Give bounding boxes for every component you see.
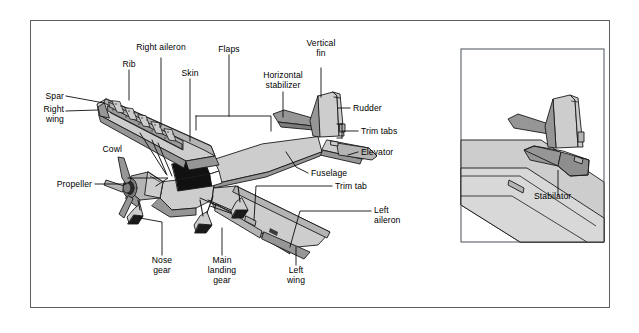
label-propeller: Propeller: [24, 179, 92, 189]
leader-flaps-bracket: [196, 116, 271, 131]
stabilator-inset: [461, 49, 604, 242]
label-horizontal-stabilizer-line1: Horizontal: [248, 70, 318, 80]
label-fuselage: Fuselage: [311, 168, 347, 178]
label-right-wing-line2: wing: [0, 114, 64, 124]
label-left-aileron-line1: Left: [374, 205, 389, 215]
label-main-landing-gear-line1: Main: [198, 255, 246, 265]
label-left-wing-line1: Left: [276, 265, 316, 275]
label-right-aileron: Right aileron: [118, 42, 204, 52]
label-rib: Rib: [109, 59, 149, 69]
label-left-aileron-line2: aileron: [374, 215, 401, 225]
trim-tab-elevator: [331, 141, 338, 146]
label-horizontal-stabilizer-line2: stabilizer: [248, 80, 318, 90]
label-main-landing-gear-line3: gear: [198, 275, 246, 285]
label-trim-tabs: Trim tabs: [361, 126, 397, 136]
label-flaps: Flaps: [208, 44, 250, 54]
horizontal-stabilizer-right: [273, 110, 316, 130]
label-nose-gear-line1: Nose: [142, 255, 182, 265]
leader-right-wing: [66, 110, 98, 111]
leader-spar: [66, 96, 104, 103]
left-wing: [212, 186, 330, 259]
label-main-landing-gear-line2: landing: [198, 265, 246, 275]
vertical-fin: [310, 92, 339, 137]
right-wing: [97, 99, 219, 170]
label-trim-tab: Trim tab: [335, 181, 367, 191]
label-left-wing-line2: wing: [276, 275, 316, 285]
label-nose-gear-line2: gear: [142, 265, 182, 275]
label-stabilator: Stabilator: [534, 191, 571, 201]
label-right-wing-line1: Right: [0, 104, 64, 114]
label-elevator: Elevator: [361, 147, 393, 157]
diagram-canvas: Spar Right wing Rib Right aileron Skin F…: [0, 0, 639, 333]
label-spar: Spar: [0, 91, 64, 101]
leader-nose-gear: [140, 218, 162, 255]
label-vertical-fin-line1: Vertical: [292, 38, 350, 48]
label-skin: Skin: [170, 68, 210, 78]
label-cowl: Cowl: [58, 144, 122, 154]
label-rudder: Rudder: [353, 103, 382, 113]
propeller: [104, 157, 133, 218]
label-vertical-fin-line2: fin: [292, 48, 350, 58]
